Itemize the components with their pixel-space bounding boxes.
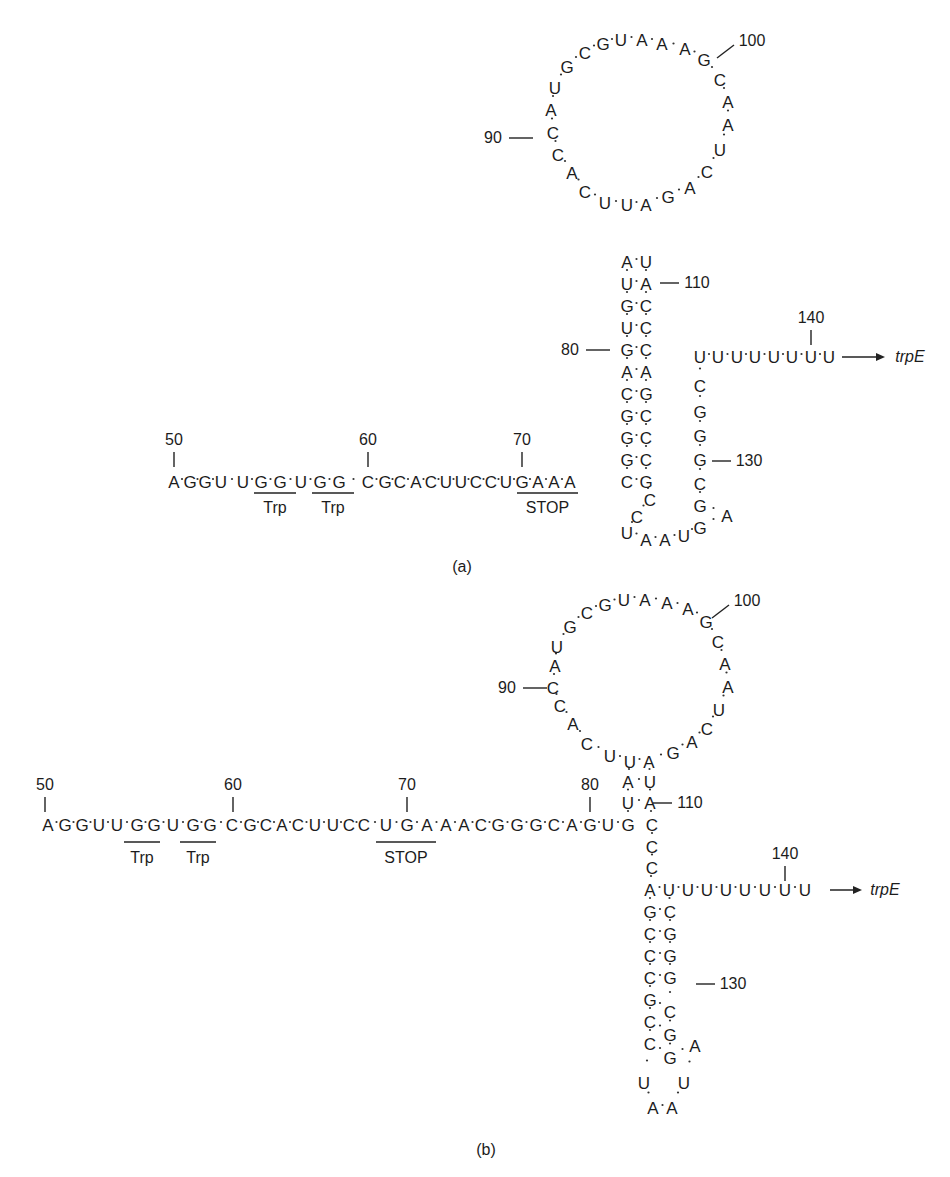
nucleotide-92: U: [551, 639, 563, 656]
nucleotide-50: A: [42, 817, 53, 834]
nucleotide-71: A: [532, 474, 543, 491]
nucleotide-82: G: [621, 817, 634, 834]
nucleotide-61: G: [378, 474, 391, 491]
position-label-90: 90: [498, 680, 516, 696]
nucleotide-60: C: [362, 474, 374, 491]
nucleotide-134: U: [694, 349, 706, 366]
nucleotide-97: A: [639, 592, 650, 609]
nucleotide-69: U: [500, 474, 512, 491]
nucleotide-109: U: [644, 774, 656, 791]
nucleotide-70: G: [400, 817, 413, 834]
nucleotide-73: A: [564, 474, 575, 491]
nucleotide-58: G: [313, 474, 326, 491]
nucleotide-85: U: [621, 197, 633, 214]
nucleotide-91: A: [549, 658, 560, 675]
trp-codon-label: Trp: [321, 500, 344, 516]
nucleotide-139: U: [759, 882, 771, 899]
nucleotide-66: U: [455, 474, 467, 491]
nucleotide-88: A: [567, 716, 578, 733]
nucleotide-54: U: [237, 474, 249, 491]
nucleotide-115: G: [639, 386, 652, 403]
nucleotide-112: C: [646, 839, 658, 856]
nucleotide-137: U: [720, 882, 732, 899]
trpE-gene-label: trpE: [895, 349, 924, 365]
nucleotide-91: A: [545, 102, 556, 119]
nucleotide-96: U: [618, 592, 630, 609]
nucleotide-126: G: [693, 520, 706, 537]
nucleotide-94: C: [579, 45, 591, 62]
nucleotide-81: U: [621, 320, 633, 337]
nucleotide-52: G: [75, 817, 88, 834]
nucleotide-51: G: [58, 817, 71, 834]
position-label-70: 70: [513, 432, 531, 448]
nucleotide-73: A: [458, 817, 469, 834]
nucleotide-115: G: [643, 904, 656, 921]
nucleotide-141: U: [799, 882, 811, 899]
nucleotide-75: G: [491, 817, 504, 834]
nucleotide-78: C: [548, 817, 560, 834]
position-label-60: 60: [224, 777, 242, 793]
nucleotide-109: U: [640, 254, 652, 271]
nucleotide-56: G: [147, 817, 160, 834]
nucleotide-125: U: [678, 528, 690, 545]
nucleotide-93: G: [563, 619, 576, 636]
nucleotide-50: A: [168, 474, 179, 491]
nucleotide-127: G: [663, 1050, 676, 1067]
nucleotide-86: U: [599, 195, 611, 212]
nucleotide-111: C: [646, 817, 658, 834]
nucleotide-71: A: [421, 817, 432, 834]
nucleotide-97: A: [636, 32, 647, 49]
nucleotide-110: A: [640, 276, 651, 293]
nucleotide-79: A: [566, 817, 577, 834]
nucleotide-123: A: [640, 532, 651, 549]
nucleotide-132: G: [693, 404, 706, 421]
nucleotide-107: G: [666, 745, 679, 762]
nucleotide-62: C: [394, 474, 406, 491]
nucleotide-67: C: [470, 474, 482, 491]
nucleotide-56: G: [273, 474, 286, 491]
stop-codon-label: STOP: [384, 850, 427, 866]
nucleotide-79: A: [621, 364, 632, 381]
nucleotide-105: C: [701, 721, 713, 738]
nucleotide-88: A: [566, 165, 577, 182]
position-label-90: 90: [484, 130, 502, 146]
nucleotide-87: C: [579, 184, 591, 201]
panel-caption: (b): [476, 1142, 496, 1158]
nucleotide-124: A: [666, 1100, 677, 1117]
nucleotide-95: G: [596, 36, 609, 53]
nucleotide-133: C: [664, 904, 676, 921]
nucleotide-87: C: [581, 736, 593, 753]
position-label-100: 100: [739, 33, 766, 49]
nucleotide-122: U: [621, 525, 633, 542]
nucleotide-105: C: [701, 164, 713, 181]
nucleotide-121: C: [644, 1036, 656, 1053]
nucleotide-74: C: [475, 817, 487, 834]
nucleotide-100: G: [699, 614, 712, 631]
nucleotide-57: U: [167, 817, 179, 834]
nucleotide-130: G: [693, 452, 706, 469]
stop-codon-label: STOP: [526, 500, 569, 516]
nucleotide-135: U: [712, 349, 724, 366]
nucleotide-130: G: [663, 970, 676, 987]
position-label-140: 140: [772, 846, 799, 862]
nucleotide-114: A: [640, 364, 651, 381]
nucleotide-93: G: [560, 59, 573, 76]
nucleotide-72: A: [548, 474, 559, 491]
nucleotide-65: U: [309, 817, 321, 834]
nucleotide-77: G: [529, 817, 542, 834]
nucleotide-131: G: [663, 948, 676, 965]
nucleotide-89: C: [552, 147, 564, 164]
position-label-60: 60: [359, 432, 377, 448]
nucleotide-122: U: [638, 1075, 650, 1092]
nucleotide-123: A: [647, 1100, 658, 1117]
nucleotide-141: U: [823, 349, 835, 366]
nucleotide-111: C: [640, 298, 652, 315]
nucleotide-101: C: [712, 634, 724, 651]
nucleotide-68: C: [485, 474, 497, 491]
nucleotide-64: C: [292, 817, 304, 834]
nucleotide-94: C: [581, 605, 593, 622]
position-label-130: 130: [736, 453, 763, 469]
position-label-80: 80: [561, 342, 579, 358]
nucleotide-83: U: [622, 795, 634, 812]
nucleotide-103: A: [722, 679, 733, 696]
